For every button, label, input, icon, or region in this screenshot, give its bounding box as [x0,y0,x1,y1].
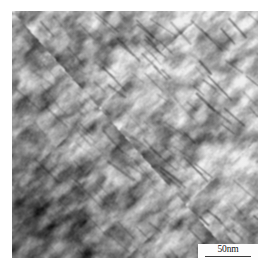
scale-bar: 50nm [198,244,258,260]
tem-micrograph-image [12,11,258,258]
micrograph-canvas [12,11,258,258]
scale-bar-rule [205,256,251,257]
figure-root: 50nm [0,0,270,270]
scale-bar-label: 50nm [217,244,238,255]
